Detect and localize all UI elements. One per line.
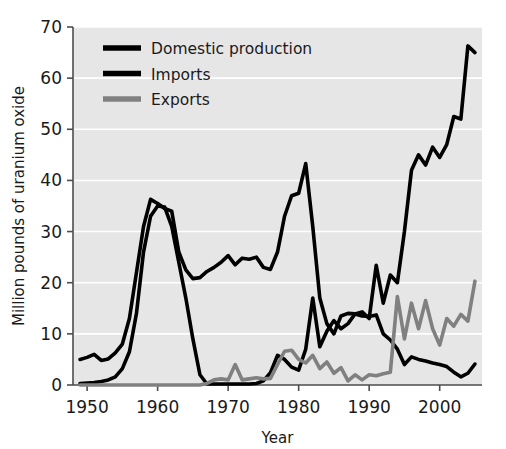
- x-tick-label-1960: 1960: [136, 397, 179, 417]
- y-axis-title: Million pounds of uranium oxide: [10, 86, 28, 326]
- y-tick-label-10: 10: [40, 324, 62, 344]
- y-tick-label-50: 50: [40, 119, 62, 139]
- legend-label-imports: Imports: [151, 66, 211, 84]
- x-tick-label-1980: 1980: [277, 397, 320, 417]
- y-tick-label-20: 20: [40, 273, 62, 293]
- y-tick-label-30: 30: [40, 222, 62, 242]
- legend-label-domestic-production: Domestic production: [151, 40, 312, 58]
- y-tick-label-0: 0: [51, 375, 62, 395]
- x-tick-label-1990: 1990: [348, 397, 391, 417]
- y-tick-label-70: 70: [40, 17, 62, 37]
- chart-canvas: 010203040506070 195019601970198019902000…: [0, 0, 506, 449]
- uranium-oxide-line-chart: 010203040506070 195019601970198019902000…: [0, 0, 506, 449]
- x-tick-label-2000: 2000: [418, 397, 461, 417]
- legend-label-exports: Exports: [151, 91, 210, 109]
- x-tick-label-1970: 1970: [207, 397, 250, 417]
- y-tick-label-60: 60: [40, 68, 62, 88]
- y-tick-label-40: 40: [40, 170, 62, 190]
- x-tick-label-1950: 1950: [65, 397, 108, 417]
- x-axis-title: Year: [261, 429, 295, 447]
